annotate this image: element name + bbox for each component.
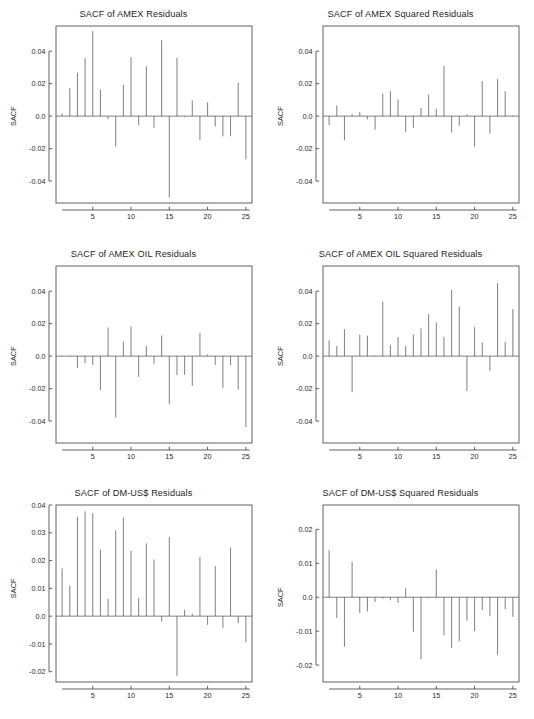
y-tick-label: -0.04 [29, 416, 45, 425]
x-tick-label: 5 [91, 212, 95, 221]
stem-series [329, 550, 513, 659]
y-tick-label: 0.01 [32, 584, 46, 593]
x-tick-label: 15 [165, 691, 173, 700]
stem-series [62, 326, 246, 427]
y-tick-label: -0.01 [29, 640, 45, 649]
x-tick-label: 25 [242, 691, 250, 700]
x-tick-label: 25 [509, 452, 517, 461]
y-tick-label: 0.04 [32, 286, 46, 295]
y-axis-title: SACF [276, 106, 285, 126]
y-tick-label: 0.0 [36, 112, 46, 121]
y-tick-label: -0.04 [296, 416, 312, 425]
y-tick-label: -0.02 [29, 668, 45, 677]
x-tick-label: 5 [358, 452, 362, 461]
x-tick-label: 20 [204, 212, 212, 221]
x-tick-label: 25 [509, 212, 517, 221]
sacf-figure-grid: SACF of AMEX Residuals0.040.020.0-0.02-0… [0, 0, 534, 719]
x-tick-label: 5 [358, 212, 362, 221]
x-tick-label: 5 [91, 452, 95, 461]
plot-area-dm-usd-squared-residuals: 0.020.010.0-0.01-0.02SACF510152025 [267, 479, 534, 719]
x-tick-label: 10 [394, 452, 402, 461]
y-axis-title: SACF [276, 345, 285, 365]
stem-series [329, 66, 513, 147]
x-tick-label: 20 [471, 691, 479, 700]
y-tick-label: 0.02 [299, 319, 313, 328]
y-tick-label: 0.03 [32, 529, 46, 538]
plot-area-amex-oil-residuals: 0.040.020.0-0.02-0.04SACF510152025 [0, 240, 267, 480]
y-tick-label: 0.04 [32, 501, 46, 510]
x-tick-label: 10 [394, 212, 402, 221]
stem-series [62, 31, 246, 197]
x-tick-label: 20 [204, 452, 212, 461]
y-tick-label: 0.0 [36, 612, 46, 621]
x-tick-label: 25 [509, 691, 517, 700]
y-tick-label: 0.0 [303, 351, 313, 360]
plot-area-amex-residuals: 0.040.020.0-0.02-0.04SACF510152025 [0, 0, 267, 240]
stem-series [62, 512, 246, 676]
plot-area-dm-usd-residuals: 0.040.030.020.010.0-0.01-0.02SACF5101520… [0, 479, 267, 719]
x-tick-label: 15 [165, 212, 173, 221]
panel-amex-residuals: SACF of AMEX Residuals0.040.020.0-0.02-0… [0, 0, 267, 240]
y-tick-label: -0.04 [296, 177, 312, 186]
panel-dm-usd-residuals: SACF of DM-US$ Residuals0.040.030.020.01… [0, 479, 267, 719]
panel-amex-squared-residuals: SACF of AMEX Squared Residuals0.040.020.… [267, 0, 534, 240]
y-tick-label: -0.02 [29, 384, 45, 393]
panel-amex-oil-squared-residuals: SACF of AMEX OIL Squared Residuals0.040.… [267, 240, 534, 480]
y-tick-label: 0.01 [299, 559, 313, 568]
y-tick-label: -0.02 [296, 384, 312, 393]
y-axis-title: SACF [9, 578, 18, 598]
y-axis-title: SACF [9, 106, 18, 126]
x-tick-label: 10 [127, 212, 135, 221]
panel-dm-usd-squared-residuals: SACF of DM-US$ Squared Residuals0.020.01… [267, 479, 534, 719]
plot-frame [56, 266, 252, 443]
y-tick-label: 0.04 [299, 286, 313, 295]
y-tick-label: -0.04 [29, 177, 45, 186]
y-tick-label: 0.04 [32, 47, 46, 56]
x-tick-label: 20 [204, 691, 212, 700]
y-axis-title: SACF [276, 587, 285, 607]
y-tick-label: 0.0 [303, 112, 313, 121]
stem-series [329, 283, 513, 392]
y-tick-label: -0.02 [29, 144, 45, 153]
y-tick-label: -0.02 [296, 661, 312, 670]
x-tick-label: 20 [471, 212, 479, 221]
y-tick-label: 0.02 [32, 319, 46, 328]
y-tick-label: 0.02 [299, 525, 313, 534]
y-tick-label: 0.0 [36, 351, 46, 360]
y-tick-label: -0.01 [296, 627, 312, 636]
x-tick-label: 15 [432, 212, 440, 221]
y-tick-label: 0.0 [303, 593, 313, 602]
x-tick-label: 25 [242, 212, 250, 221]
plot-area-amex-squared-residuals: 0.040.020.0-0.02-0.04SACF510152025 [267, 0, 534, 240]
panel-amex-oil-residuals: SACF of AMEX OIL Residuals0.040.020.0-0.… [0, 240, 267, 480]
x-tick-label: 15 [165, 452, 173, 461]
y-axis-title: SACF [9, 345, 18, 365]
x-tick-label: 10 [127, 691, 135, 700]
plot-area-amex-oil-squared-residuals: 0.040.020.0-0.02-0.04SACF510152025 [267, 240, 534, 480]
y-tick-label: -0.02 [296, 144, 312, 153]
x-tick-label: 15 [432, 452, 440, 461]
x-tick-label: 25 [242, 452, 250, 461]
y-tick-label: 0.02 [32, 556, 46, 565]
x-tick-label: 10 [127, 452, 135, 461]
y-tick-label: 0.04 [299, 47, 313, 56]
x-tick-label: 20 [471, 452, 479, 461]
x-tick-label: 15 [432, 691, 440, 700]
y-tick-label: 0.02 [32, 79, 46, 88]
x-tick-label: 5 [91, 691, 95, 700]
y-tick-label: 0.02 [299, 79, 313, 88]
x-tick-label: 5 [358, 691, 362, 700]
x-tick-label: 10 [394, 691, 402, 700]
